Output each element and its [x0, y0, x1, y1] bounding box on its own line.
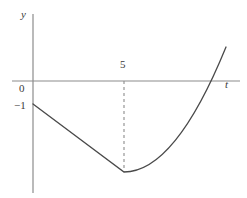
vertex-t-tick-label: 5: [120, 59, 126, 70]
plot-canvas: [0, 0, 247, 198]
origin-label: 0: [19, 83, 25, 94]
graph-figure: y t 0 −1 5: [0, 0, 247, 198]
t-axis-label: t: [225, 79, 228, 90]
y-intercept-tick-label: −1: [14, 100, 26, 111]
y-axis-label: y: [21, 9, 26, 20]
parabola-curve: [33, 47, 226, 172]
